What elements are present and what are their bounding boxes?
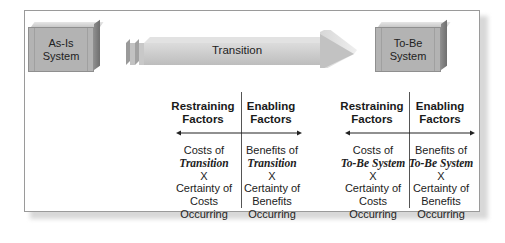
transition-label: Transition	[212, 44, 262, 56]
restraining-factors-text: Costs of Transition X Certainty of Costs…	[171, 144, 237, 221]
box-front-face: As-Is System	[28, 27, 94, 72]
as-is-label: As-Is System	[43, 37, 80, 63]
restraining-factors-heading: Restraining Factors	[340, 100, 404, 126]
to-be-label: To-Be System	[390, 37, 427, 63]
to-be-factors: Restraining Factors Enabling Factors Cos…	[344, 92, 476, 208]
enabling-factors-text: Benefits of To-Be System X Certainty of …	[408, 144, 474, 221]
box-front-face: To-Be System	[375, 27, 441, 72]
as-is-system-box: As-Is System	[28, 22, 100, 72]
enabling-factors-text: Benefits of Transition X Certainty of Be…	[239, 144, 305, 221]
restraining-factors-heading: Restraining Factors	[171, 100, 235, 126]
enabling-factors-heading: Enabling Factors	[239, 100, 303, 126]
box-side-face	[441, 20, 447, 70]
enabling-factors-heading: Enabling Factors	[408, 100, 472, 126]
to-be-system-box: To-Be System	[375, 22, 447, 72]
restraining-factors-text: Costs of To-Be System X Certainty of Cos…	[340, 144, 406, 221]
double-arrow-icon	[344, 130, 476, 136]
box-side-face	[94, 20, 100, 70]
double-arrow-icon	[175, 130, 307, 136]
transition-arrow: Transition	[122, 30, 372, 68]
transition-factors: Restraining Factors Enabling Factors Cos…	[175, 92, 307, 208]
